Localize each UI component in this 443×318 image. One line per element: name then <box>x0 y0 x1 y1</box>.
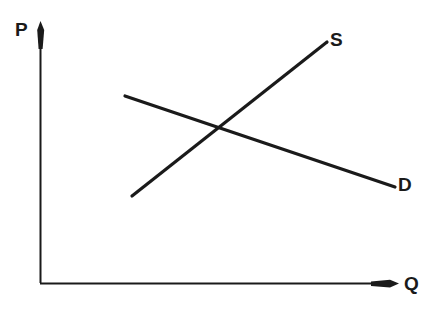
price-axis-label: P <box>15 20 28 39</box>
quantity-axis-label: Q <box>404 274 419 293</box>
supply-demand-figure: P Q S D <box>0 0 443 318</box>
chart-canvas <box>0 0 443 318</box>
supply-curve-label: S <box>330 30 343 49</box>
figure-background <box>0 0 443 318</box>
demand-curve-label: D <box>398 175 412 194</box>
